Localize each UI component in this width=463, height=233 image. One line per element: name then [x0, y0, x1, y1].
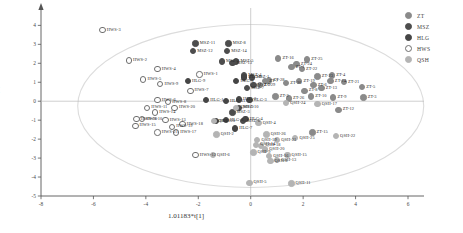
- data-point-label: HWS-20: [179, 105, 195, 109]
- data-point-label: ZT-16: [282, 56, 293, 60]
- data-point-zt-23: [314, 73, 320, 79]
- data-point-qsh-14: [253, 142, 259, 148]
- data-point-label: MSZ-11: [200, 41, 215, 45]
- data-point-label: QSH-20: [269, 147, 284, 151]
- data-point-label: QSH-26: [271, 132, 286, 136]
- data-point-label: QSH-3: [240, 105, 253, 109]
- data-point-zt-10: [308, 93, 314, 99]
- legend-label: MSZ: [417, 24, 429, 30]
- legend-item-msz[interactable]: MSZ: [405, 21, 457, 32]
- data-point-msz-9: [219, 58, 225, 64]
- y-tick-label: 4: [25, 22, 36, 28]
- data-point-label: QSH-2: [221, 132, 234, 136]
- data-point-hws-5: [140, 76, 146, 82]
- y-tick-label: -3: [25, 155, 36, 161]
- data-point-label: HLG-5: [240, 79, 253, 83]
- data-point-qsh-2: [213, 131, 219, 137]
- y-tick-label: 0: [25, 98, 36, 104]
- data-point-zt-3: [360, 94, 366, 100]
- y-tick-label: -5: [25, 193, 36, 199]
- data-point-label: QSH-8: [275, 159, 288, 163]
- data-point-label: HWS-7: [195, 88, 209, 92]
- data-point-zt-9: [330, 94, 336, 100]
- data-point-label: ZT-4: [336, 73, 345, 77]
- data-point-hws-13: [162, 117, 168, 123]
- data-point-label: MSZ-7: [251, 86, 264, 90]
- legend-swatch-icon: [405, 45, 412, 52]
- data-point-label: QSH-5: [254, 180, 267, 184]
- data-point-label: HWS-12: [200, 153, 216, 157]
- data-point-label: HWS-4: [162, 67, 176, 71]
- legend: ZTMSZHLGHWSQSH: [405, 10, 457, 65]
- data-point-label: QSH-9: [258, 150, 271, 154]
- data-point-label: HWS-1: [204, 72, 218, 76]
- legend-label: ZT: [417, 13, 424, 19]
- data-point-hws-1: [196, 71, 202, 77]
- data-point-zt-12: [335, 107, 341, 113]
- data-point-label: QSH-1: [218, 119, 231, 123]
- data-point-qsh-5: [246, 180, 252, 186]
- data-point-label: ZT-14: [335, 79, 346, 83]
- data-point-label: ZT-10: [315, 94, 326, 98]
- data-point-label: ZT-13: [326, 86, 337, 90]
- legend-swatch-icon: [405, 56, 412, 63]
- legend-item-zt[interactable]: ZT: [405, 10, 457, 21]
- data-point-label: ZT-22: [306, 67, 317, 71]
- data-point-label: HLG-9: [192, 79, 205, 83]
- data-point-label: HLG-11: [230, 99, 245, 103]
- data-point-label: QSH-4: [263, 121, 276, 125]
- data-point-label: HWS-15: [140, 123, 156, 127]
- x-tick-label: 0: [246, 201, 256, 207]
- data-point-label: MSZ-13: [237, 61, 252, 65]
- y-tick-label: 2: [25, 60, 36, 66]
- data-point-label: QSH-17: [322, 102, 337, 106]
- data-point-label: ZT-9: [337, 95, 346, 99]
- data-point-label: HWS-3: [107, 28, 121, 32]
- data-point-label: QSH-22: [340, 134, 355, 138]
- data-point-msz-11: [192, 40, 198, 46]
- legend-swatch-icon: [405, 23, 412, 30]
- data-point-label: ZT-12: [343, 107, 354, 111]
- data-point-msz-8: [225, 40, 231, 46]
- legend-item-hlg[interactable]: HLG: [405, 32, 457, 43]
- data-point-zt-2: [272, 93, 278, 99]
- data-point-label: MSZ-8: [233, 41, 246, 45]
- data-point-hws-21: [154, 129, 160, 135]
- data-point-label: QSH-6: [217, 153, 230, 157]
- data-point-label: ZT-25: [311, 57, 322, 61]
- legend-label: HLG: [417, 35, 429, 41]
- x-tick-label: -8: [36, 201, 46, 207]
- data-point-hws-3: [99, 27, 105, 33]
- data-point-label: MSZ-3: [237, 110, 250, 114]
- data-point-msz-7: [244, 85, 250, 91]
- data-point-hws-14: [152, 109, 158, 115]
- y-tick-label: -1: [25, 117, 36, 123]
- data-point-label: ZT-2: [280, 94, 289, 98]
- data-point-label: HWS-18: [187, 122, 203, 126]
- data-point-label: ZT-20: [290, 81, 301, 85]
- legend-item-qsh[interactable]: QSH: [405, 54, 457, 65]
- data-point-hws-7: [187, 88, 193, 94]
- data-point-hws-15: [132, 123, 138, 129]
- pca-scatter-plot-figure: ZT-16ZT-25ZT-24ZT-22ZT-1ZT-4ZT-23ZT-21ZT…: [0, 0, 463, 233]
- x-tick-label: 4: [351, 201, 361, 207]
- x-tick-label: 6: [403, 201, 413, 207]
- y-tick-label: -2: [25, 136, 36, 142]
- data-point-label: ZT-23: [322, 74, 333, 78]
- legend-swatch-icon: [405, 12, 412, 19]
- data-point-label: HLG-1: [210, 98, 223, 102]
- legend-swatch-icon: [405, 34, 412, 41]
- data-point-label: QSH-25: [299, 136, 314, 140]
- data-point-label: QSH-24: [290, 101, 305, 105]
- data-point-label: ZT-21: [348, 80, 359, 84]
- data-point-label: MSZ-14: [231, 49, 246, 53]
- data-point-zt-1: [288, 64, 294, 70]
- data-point-hws-2: [126, 57, 132, 63]
- legend-label: QSH: [417, 57, 429, 63]
- data-point-label: QSH-21: [281, 138, 296, 142]
- y-tick-label: 3: [25, 41, 36, 47]
- data-point-label: MSZ-12: [197, 49, 212, 53]
- legend-item-hws[interactable]: HWS: [405, 43, 457, 54]
- data-point-label: ZT-1: [296, 65, 305, 69]
- data-point-hws-4: [154, 66, 160, 72]
